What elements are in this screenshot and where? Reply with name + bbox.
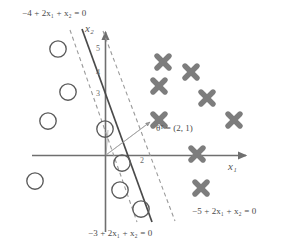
circle-marker bbox=[114, 155, 130, 171]
circle-marker bbox=[40, 113, 56, 129]
circle-marker bbox=[60, 84, 76, 100]
circle-marker bbox=[27, 173, 43, 189]
negative-class-markers bbox=[27, 41, 149, 217]
y-tick-label-4: 4 bbox=[96, 68, 100, 77]
x-marker bbox=[157, 56, 169, 68]
y-tick-label-5: 5 bbox=[96, 44, 100, 53]
y-axis-label: x₂ bbox=[85, 22, 94, 34]
x-marker bbox=[185, 66, 197, 78]
x-axis-label: x₁ bbox=[228, 160, 237, 172]
decision-boundary-line bbox=[82, 29, 152, 222]
x-marker bbox=[153, 80, 165, 92]
bottom-left-line-equation-label: −3 + 2x₁ + x₂ = 0 bbox=[88, 228, 152, 238]
circle-marker bbox=[50, 41, 66, 57]
figure-container: −4 + 2x₁ + x₂ = 0 −3 + 2x₁ + x₂ = 0 −5 +… bbox=[0, 0, 291, 252]
top-line-equation-label: −4 + 2x₁ + x₂ = 0 bbox=[22, 8, 86, 18]
x-marker bbox=[201, 92, 213, 104]
bottom-right-line-equation-label: −5 + 2x₁ + x₂ = 0 bbox=[192, 206, 256, 216]
x-marker bbox=[228, 114, 240, 126]
x-marker bbox=[195, 182, 207, 194]
theta-vector-label: θᵀ = (2, 1) bbox=[156, 123, 193, 133]
y-tick-label-3: 3 bbox=[96, 89, 100, 98]
x-marker bbox=[191, 148, 203, 160]
x-tick-label-2: 2 bbox=[140, 156, 144, 165]
axis-group bbox=[32, 32, 246, 232]
